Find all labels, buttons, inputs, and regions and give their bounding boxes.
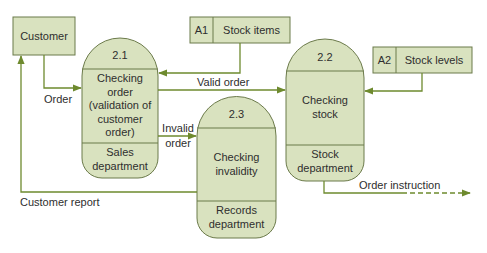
flow-stock-levels <box>365 73 422 91</box>
flow-order-instruction-label: Order instruction <box>359 179 440 192</box>
process-2-2-location-line: department <box>286 162 364 176</box>
flow-invalid-order-label-2: order <box>159 137 197 150</box>
process-2-1-location-line: department <box>82 160 158 174</box>
flow-stock-items <box>159 43 240 73</box>
process-2-3-location-line: department <box>197 218 276 232</box>
process-2-1-name-line: Checking <box>82 72 158 86</box>
process-2-2-location-line: Stock <box>286 148 364 162</box>
store-a1-code: A1 <box>190 24 213 37</box>
process-2-1-name-line: customer <box>82 113 158 127</box>
flow-order <box>44 55 81 88</box>
process-2-1-location: Sales department <box>82 146 158 173</box>
process-2-1-name-line: order) <box>82 126 158 140</box>
process-2-1-number: 2.1 <box>82 49 158 62</box>
process-2-2-location: Stock department <box>286 148 364 175</box>
process-2-2-name: Checking stock <box>286 94 364 121</box>
store-a1-name: Stock items <box>213 24 290 37</box>
flow-invalid-order-label-1: Invalid <box>159 122 197 135</box>
flow-valid-order-label: Valid order <box>197 76 249 89</box>
process-2-2-number: 2.2 <box>286 51 364 64</box>
process-2-2-name-line: stock <box>286 108 364 122</box>
process-2-1-location-line: Sales <box>82 146 158 160</box>
process-2-3-name-line: Checking <box>197 151 276 165</box>
store-a2-name: Stock levels <box>396 54 472 67</box>
process-2-3-name: Checking invalidity <box>197 151 276 178</box>
process-2-1-name-line: (validation of <box>82 99 158 113</box>
store-a2-code: A2 <box>373 54 396 67</box>
process-2-1-name-line: order <box>82 86 158 100</box>
process-2-3-location: Records department <box>197 204 276 231</box>
process-2-2-name-line: Checking <box>286 94 364 108</box>
process-2-3-location-line: Records <box>197 204 276 218</box>
process-2-3-number: 2.3 <box>197 108 276 121</box>
process-2-1-name: Checking order (validation of customer o… <box>82 72 158 140</box>
flow-order-label: Order <box>44 93 72 106</box>
flow-customer-report-label: Customer report <box>20 196 99 209</box>
customer-label: Customer <box>13 30 75 43</box>
process-2-3-name-line: invalidity <box>197 165 276 179</box>
